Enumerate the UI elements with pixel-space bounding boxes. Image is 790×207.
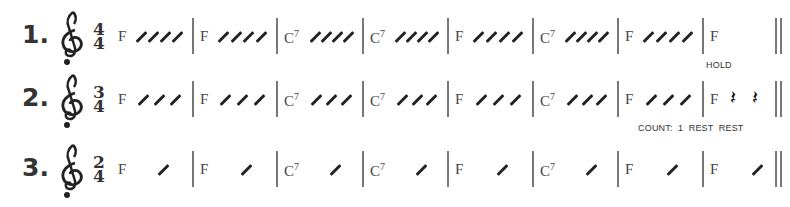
- chord-root: C: [540, 163, 550, 179]
- final-barline: [780, 81, 782, 117]
- beat-slash-icon: [585, 164, 597, 176]
- chord-root: F: [455, 91, 463, 107]
- barline: [276, 81, 278, 117]
- beat-slash-icon: [253, 94, 265, 106]
- beat-slash-icon: [595, 94, 607, 106]
- chord-root: C: [370, 30, 380, 46]
- chord-root: F: [200, 161, 208, 177]
- barline: [276, 18, 278, 54]
- chord-extension: 7: [294, 161, 299, 172]
- chord-extension: 7: [380, 28, 385, 39]
- beat-slash-icon: [137, 94, 149, 106]
- beat-slash-icon: [668, 31, 680, 43]
- beat-slash-icon: [415, 164, 427, 176]
- beat-slash-icon: [169, 94, 181, 106]
- chord-root: C: [284, 163, 294, 179]
- chord-symbol: F: [200, 161, 208, 178]
- beat-slash-icon: [230, 31, 242, 43]
- chord-symbol: C7: [540, 161, 555, 180]
- chord-symbol: F: [625, 28, 633, 45]
- beat-slash-icon: [645, 94, 657, 106]
- barline: [532, 18, 534, 54]
- treble-clef-icon: [55, 71, 91, 131]
- exercise-1: 1.44FFC7C7FC7FFHOLD: [0, 10, 790, 70]
- beat-slash-icon: [171, 31, 183, 43]
- barline: [362, 151, 364, 187]
- barline: [702, 81, 704, 117]
- beat-slash-icon: [662, 94, 674, 106]
- barline: [617, 151, 619, 187]
- barline: [447, 151, 449, 187]
- barline: [532, 151, 534, 187]
- beat-slash-icon: [416, 31, 428, 43]
- final-barline: [775, 18, 777, 54]
- beat-slash-icon: [567, 94, 579, 106]
- exercise-number: 3.: [22, 153, 49, 182]
- chord-symbol: C7: [370, 161, 385, 180]
- chord-symbol: F: [455, 161, 463, 178]
- hold-annotation: HOLD: [706, 60, 732, 70]
- quarter-rest-icon: 𝄽: [730, 85, 736, 109]
- chord-extension: 7: [380, 91, 385, 102]
- beat-slash-icon: [236, 94, 248, 106]
- barline: [362, 18, 364, 54]
- chord-root: F: [710, 161, 718, 177]
- beat-slash-icon: [320, 31, 332, 43]
- beat-slash-icon: [159, 31, 171, 43]
- beat-slash-icon: [498, 31, 510, 43]
- barline: [192, 18, 194, 54]
- final-barline: [775, 81, 777, 117]
- chord-symbol: F: [625, 161, 633, 178]
- time-signature: 34: [91, 85, 107, 113]
- chord-root: C: [284, 30, 294, 46]
- barline: [192, 81, 194, 117]
- barline: [447, 18, 449, 54]
- time-signature: 44: [91, 22, 107, 50]
- chord-root: F: [710, 28, 718, 44]
- quarter-rest-icon: 𝄽: [752, 85, 758, 109]
- chord-symbol: F: [200, 91, 208, 108]
- beat-slash-icon: [255, 31, 267, 43]
- beat-slash-icon: [581, 94, 593, 106]
- beat-slash-icon: [243, 31, 255, 43]
- exercise-2: 2.34FFC7C7FC7FF𝄽𝄽COUNT: 1 REST REST: [0, 73, 790, 133]
- chord-symbol: C7: [370, 28, 385, 47]
- exercise-number: 2.: [22, 83, 49, 112]
- chord-symbol: C7: [370, 91, 385, 110]
- chord-root: F: [118, 161, 126, 177]
- beat-slash-icon: [325, 94, 337, 106]
- chord-symbol: C7: [284, 28, 299, 47]
- time-signature: 24: [91, 155, 107, 183]
- chord-extension: 7: [550, 91, 555, 102]
- beat-slash-icon: [309, 31, 321, 43]
- chord-root: F: [118, 28, 126, 44]
- beat-slash-icon: [342, 31, 354, 43]
- beat-slash-icon: [679, 94, 691, 106]
- final-barline: [780, 151, 782, 187]
- final-barline: [775, 151, 777, 187]
- chord-symbol: F: [710, 91, 718, 108]
- time-signature-bottom: 4: [91, 169, 107, 183]
- chord-root: C: [284, 93, 294, 109]
- beat-slash-icon: [666, 164, 678, 176]
- beat-slash-icon: [643, 31, 655, 43]
- beat-slash-icon: [496, 164, 508, 176]
- exercise-number: 1.: [22, 20, 49, 49]
- beat-slash-icon: [220, 94, 232, 106]
- chord-symbol: F: [710, 28, 718, 45]
- chord-symbol: F: [118, 161, 126, 178]
- barline: [702, 18, 704, 54]
- chord-symbol: C7: [284, 91, 299, 110]
- beat-slash-icon: [511, 31, 523, 43]
- beat-slash-icon: [135, 31, 147, 43]
- barline: [276, 151, 278, 187]
- chord-root: F: [455, 161, 463, 177]
- chord-symbol: C7: [284, 161, 299, 180]
- beat-slash-icon: [475, 94, 487, 106]
- barline: [447, 81, 449, 117]
- chord-symbol: F: [625, 91, 633, 108]
- chord-symbol: F: [455, 91, 463, 108]
- beat-slash-icon: [486, 31, 498, 43]
- beat-slash-icon: [329, 164, 341, 176]
- beat-slash-icon: [153, 94, 165, 106]
